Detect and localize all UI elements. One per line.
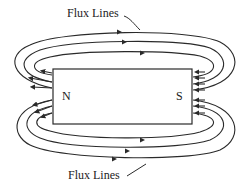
leader-line-bottom [127, 164, 146, 176]
south-pole-label: S [176, 89, 183, 103]
bar-magnet-flux-diagram: N S Flux Li [0, 0, 249, 189]
north-pole-label: N [62, 89, 71, 103]
magnet: N S [53, 69, 192, 124]
label-top: Flux Lines [67, 6, 140, 30]
leader-line-top [124, 16, 140, 30]
flux-lines-label-bottom: Flux Lines [68, 168, 120, 182]
flux-lines-label-top: Flux Lines [67, 6, 119, 20]
label-bottom: Flux Lines [68, 164, 146, 182]
magnet-body [53, 69, 192, 124]
